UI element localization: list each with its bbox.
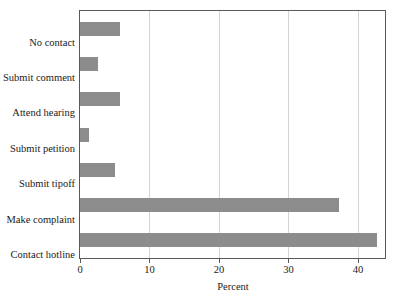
bar <box>80 198 339 212</box>
x-tick-30 <box>288 259 289 263</box>
bar <box>80 163 115 177</box>
x-tick-0 <box>80 259 81 263</box>
x-tick-label-40: 40 <box>353 264 364 275</box>
x-tick-label-20: 20 <box>214 264 225 275</box>
y-axis-label-0: No contact <box>0 38 75 48</box>
bar <box>80 128 89 142</box>
x-tick-20 <box>219 259 220 263</box>
gridline-20 <box>219 11 220 258</box>
y-axis-label-3: Submit petition <box>0 144 75 154</box>
y-axis-label-4: Submit tipoff <box>0 179 75 189</box>
y-axis-labels: No contact Submit comment Attend hearing… <box>0 10 75 259</box>
bar <box>80 233 377 247</box>
y-axis-label-2: Attend hearing <box>0 108 75 118</box>
bar-chart-figure: No contact Submit comment Attend hearing… <box>0 0 394 299</box>
bar <box>80 92 120 106</box>
gridline-30 <box>288 11 289 258</box>
y-axis-label-5: Make complaint <box>0 215 75 225</box>
gridline-40 <box>358 11 359 258</box>
x-axis-title: Percent <box>79 281 387 292</box>
bar <box>80 22 120 36</box>
x-tick-label-0: 0 <box>77 264 82 275</box>
plot-inner <box>80 11 385 258</box>
y-axis-label-6: Contact hotline <box>0 250 75 260</box>
x-tick-10 <box>149 259 150 263</box>
gridline-10 <box>149 11 150 258</box>
y-axis-label-1: Submit comment <box>0 73 75 83</box>
x-tick-label-30: 30 <box>283 264 294 275</box>
x-tick-40 <box>358 259 359 263</box>
x-tick-label-10: 10 <box>144 264 155 275</box>
plot-area <box>79 10 386 259</box>
x-axis: 010203040 <box>79 259 387 283</box>
bar <box>80 57 98 71</box>
